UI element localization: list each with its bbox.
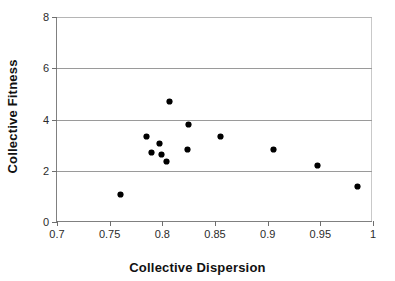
x-tick-label-1: 1 (370, 229, 376, 240)
data-point (149, 150, 154, 155)
x-tick-1 (373, 221, 374, 226)
x-axis-title: Collective Dispersion (0, 260, 395, 275)
x-tick-label-0.9: 0.9 (260, 229, 275, 240)
y-tick-label-6: 6 (43, 63, 49, 74)
gridline-y-6 (57, 68, 372, 69)
y-tick-2 (52, 171, 57, 172)
x-tick-label-0.85: 0.85 (204, 229, 225, 240)
x-tick-0.7 (57, 221, 58, 226)
y-tick-label-0: 0 (43, 217, 49, 228)
x-tick-0.8 (162, 221, 163, 226)
data-point (355, 184, 360, 189)
y-tick-8 (52, 17, 57, 18)
data-point (118, 192, 123, 197)
x-tick-label-0.95: 0.95 (310, 229, 331, 240)
gridline-y-4 (57, 120, 372, 121)
data-point (315, 163, 320, 168)
x-tick-label-0.7: 0.7 (49, 229, 64, 240)
data-point (167, 99, 172, 104)
y-tick-6 (52, 68, 57, 69)
x-tick-0.9 (268, 221, 269, 226)
x-tick-0.95 (320, 221, 321, 226)
data-point (271, 147, 276, 152)
data-point (164, 159, 169, 164)
scatter-chart: Collective Fitness 024680.70.750.80.850.… (0, 0, 395, 281)
data-point (185, 147, 190, 152)
data-point (144, 134, 149, 139)
y-tick-label-4: 4 (43, 114, 49, 125)
x-tick-0.75 (110, 221, 111, 226)
x-tick-label-0.8: 0.8 (155, 229, 170, 240)
gridline-y-2 (57, 171, 372, 172)
data-point (186, 122, 191, 127)
x-tick-label-0.75: 0.75 (99, 229, 120, 240)
x-axis-title-label: Collective Dispersion (129, 260, 265, 275)
gridline-y-8 (57, 17, 372, 18)
plot-area: 024680.70.750.80.850.90.951 (56, 17, 372, 222)
data-point (218, 134, 223, 139)
data-point (157, 141, 162, 146)
y-axis-title: Collective Fitness (2, 0, 22, 232)
y-tick-label-8: 8 (43, 12, 49, 23)
data-point (159, 152, 164, 157)
x-tick-0.85 (215, 221, 216, 226)
y-tick-4 (52, 120, 57, 121)
y-axis-title-label: Collective Fitness (5, 59, 20, 173)
y-tick-label-2: 2 (43, 165, 49, 176)
